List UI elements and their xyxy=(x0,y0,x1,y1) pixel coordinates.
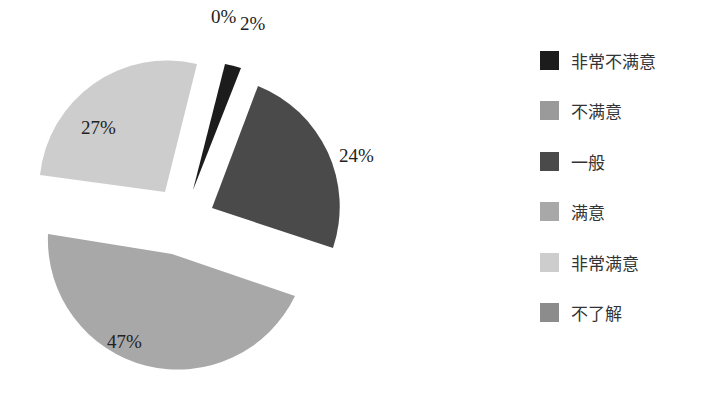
legend: 非常不满意 不满意 一般 满意 非常满意 不了解 xyxy=(540,50,656,353)
label-dissatisfied: 0% xyxy=(211,6,237,27)
legend-label: 不满意 xyxy=(571,98,622,123)
legend-item-neutral: 一般 xyxy=(540,151,656,171)
legend-item-very-satisfied: 非常满意 xyxy=(540,252,656,272)
legend-swatch xyxy=(540,51,559,70)
legend-item-satisfied: 满意 xyxy=(540,202,656,222)
label-very-satisfied: 27% xyxy=(81,117,116,138)
legend-swatch xyxy=(540,202,559,221)
legend-swatch xyxy=(540,101,559,120)
slice-satisfied xyxy=(48,234,295,370)
legend-label: 满意 xyxy=(571,199,605,224)
legend-swatch xyxy=(540,303,559,322)
legend-swatch xyxy=(540,152,559,171)
legend-item-dissatisfied: 不满意 xyxy=(540,101,656,121)
slice-very-satisfied xyxy=(40,61,197,192)
label-satisfied: 47% xyxy=(107,331,142,352)
label-neutral: 24% xyxy=(339,145,374,166)
legend-label: 非常满意 xyxy=(571,250,639,275)
legend-label: 一般 xyxy=(571,149,605,174)
legend-item-unknown: 不了解 xyxy=(540,303,656,323)
label-very-dissatisfied: 2% xyxy=(240,13,266,34)
slice-neutral xyxy=(212,86,340,248)
legend-swatch xyxy=(540,253,559,272)
legend-label: 非常不满意 xyxy=(571,48,656,73)
legend-item-very-dissatisfied: 非常不满意 xyxy=(540,50,656,70)
legend-label: 不了解 xyxy=(571,300,622,325)
